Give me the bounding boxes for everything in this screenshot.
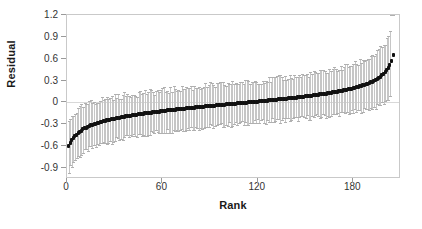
error-bar-cap-lower	[171, 133, 174, 134]
error-bar-cap-lower	[98, 145, 101, 146]
error-bar-cap-upper	[80, 104, 83, 105]
error-bar-cap-upper	[193, 86, 196, 87]
error-bar-cap-lower	[82, 153, 85, 154]
error-bar-cap-lower	[71, 167, 74, 168]
error-bar-cap-lower	[260, 120, 263, 121]
error-bar-cap-upper	[211, 83, 214, 84]
error-bar-cap-lower	[247, 125, 250, 126]
error-bar-cap-upper	[231, 81, 234, 82]
plot-area	[66, 14, 400, 178]
error-bar-cap-lower	[383, 104, 386, 105]
data-point-marker	[392, 53, 395, 57]
error-bar-cap-lower	[289, 121, 292, 122]
y-tick-label: 0.9	[24, 30, 58, 41]
error-bar-cap-lower	[76, 158, 79, 159]
error-bar-cap-lower	[184, 131, 187, 132]
error-bar-cap-lower	[112, 142, 115, 143]
error-bar-cap-lower	[123, 137, 126, 138]
error-bar-cap-upper	[255, 82, 258, 83]
error-bar-cap-upper	[173, 86, 176, 87]
error-bar-cap-lower	[212, 128, 215, 129]
error-bar-cap-lower	[136, 137, 139, 138]
error-bar-cap-lower	[320, 117, 323, 118]
x-tick-mark	[257, 178, 258, 183]
error-bar-cap-lower	[258, 123, 261, 124]
error-bar-cap-lower	[297, 121, 300, 122]
error-bar-cap-lower	[128, 137, 131, 138]
residual-rank-chart: Residual Rank 1.20.90.60.30-0.3-0.6-0.9 …	[0, 0, 422, 229]
error-bar-cap-lower	[201, 129, 204, 130]
error-bar-cap-lower	[114, 141, 117, 142]
x-tick-mark	[161, 178, 162, 183]
error-bar-cap-upper	[279, 75, 282, 76]
error-bar-cap-lower	[193, 130, 196, 131]
error-bar-cap-lower	[392, 15, 395, 16]
error-bar-cap-lower	[79, 157, 82, 158]
error-bar-cap-upper	[289, 75, 292, 76]
error-bar-cap-lower	[68, 173, 71, 174]
error-bar-cap-lower	[284, 122, 287, 123]
error-bar-cap-upper	[163, 87, 166, 88]
error-bar-cap-lower	[87, 151, 90, 152]
error-bar-cap-lower	[305, 118, 308, 119]
x-axis-title: Rank	[66, 199, 400, 211]
x-tick-mark	[66, 178, 67, 183]
error-bar-cap-lower	[330, 116, 333, 117]
error-bar-cap-lower	[208, 127, 211, 128]
error-bar-cap-lower	[223, 127, 226, 128]
error-bar-cap-lower	[91, 148, 94, 149]
y-tick-label: -0.6	[24, 140, 58, 151]
error-bar-cap-lower	[265, 124, 268, 125]
error-bar-cap-upper	[117, 94, 120, 95]
error-bar-cap-upper	[139, 91, 142, 92]
y-tick-label: -0.3	[24, 118, 58, 129]
error-bar-cap-upper	[306, 74, 309, 75]
error-bar-cap-lower	[348, 114, 351, 115]
error-bar-cap-lower	[362, 112, 365, 113]
data-point-marker	[390, 59, 393, 63]
error-bar-cap-upper	[281, 77, 284, 78]
error-bar-cap-upper	[284, 76, 287, 77]
error-bar-cap-lower	[375, 109, 378, 110]
error-bar-cap-lower	[74, 160, 77, 161]
error-bar-cap-upper	[166, 91, 169, 92]
error-bar-cap-upper	[354, 61, 357, 62]
y-tick-label: 0	[24, 96, 58, 107]
error-bar-cap-lower	[387, 100, 390, 101]
error-bar-cap-lower	[368, 110, 371, 111]
error-bar-cap-lower	[214, 126, 217, 127]
error-bar-cap-lower	[328, 117, 331, 118]
error-bar-cap-upper	[111, 96, 114, 97]
error-bar-cap-upper	[169, 87, 172, 88]
error-bar-cap-lower	[236, 125, 239, 126]
error-bar-cap-upper	[346, 64, 349, 65]
error-bar-cap-upper	[293, 75, 296, 76]
error-bar-cap-lower	[355, 112, 358, 113]
error-bar-cap-upper	[309, 72, 312, 73]
error-bar-cap-lower	[80, 155, 83, 156]
error-bar-cap-upper	[181, 86, 184, 87]
error-bar-cap-lower	[239, 122, 242, 123]
y-tick-label: 0.3	[24, 74, 58, 85]
error-bar-cap-lower	[290, 120, 293, 121]
error-bar-cap-upper	[123, 92, 126, 93]
error-bar-cap-lower	[274, 121, 277, 122]
error-bar-cap-upper	[241, 82, 244, 83]
y-tick-label: 0.6	[24, 52, 58, 63]
error-bar-cap-upper	[324, 71, 327, 72]
error-bar-cap-lower	[338, 116, 341, 117]
error-bar-cap-lower	[146, 136, 149, 137]
error-bar-cap-lower	[72, 162, 75, 163]
error-bar-cap-lower	[149, 135, 152, 136]
error-bar-cap-lower	[379, 105, 382, 106]
error-bar-cap-lower	[335, 114, 338, 115]
x-tick-mark	[352, 178, 353, 183]
y-tick-label: -0.9	[24, 162, 58, 173]
error-bar-cap-lower	[238, 123, 241, 124]
error-bar-cap-lower	[384, 101, 387, 102]
error-bar-cap-lower	[219, 124, 222, 125]
error-bar-cap-lower	[95, 147, 98, 148]
y-tick-label: 1.2	[24, 9, 58, 20]
y-axis-title: Residual	[5, 18, 19, 110]
error-bar-cap-lower	[389, 96, 392, 97]
